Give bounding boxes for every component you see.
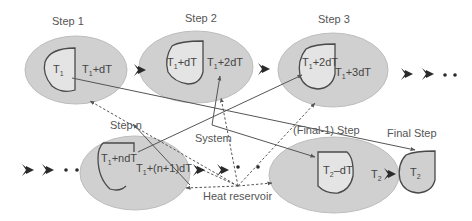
chevron-arrow-right-icon (193, 164, 205, 176)
dots-icon (75, 168, 79, 172)
system-label: System (195, 132, 232, 144)
chevron-arrow-right-icon (258, 63, 270, 75)
chevron-arrow-right-icon (217, 164, 229, 176)
step2-system-temp: T1+dT (167, 56, 197, 70)
step2-reservoir-temp: T1+2dT (207, 56, 243, 70)
final-1-step-label: (Final-1) Step (293, 124, 360, 136)
stepn-label: Step n (110, 119, 142, 131)
chevron-arrow-right-icon (401, 68, 413, 80)
dots-icon (256, 165, 260, 169)
final-step-label: Final Step (387, 127, 437, 139)
step1-label: Step 1 (52, 15, 84, 27)
chevron-arrow-right-icon (22, 164, 34, 176)
stepn-system-temp: T1+ndT (101, 152, 137, 166)
step2-label: Step 2 (185, 12, 217, 24)
step3-system-temp: T1+2dT (302, 56, 338, 70)
heat-reservoir-label: Heat reservoir (203, 190, 272, 202)
dots-icon (236, 165, 240, 169)
step3-label: Step 3 (318, 13, 350, 25)
final-system-shape (399, 151, 435, 193)
dots-icon (443, 73, 447, 77)
dots-icon (64, 168, 68, 172)
final-1-system-temp: T2–dT (323, 164, 353, 178)
chevron-arrow-right-icon (422, 68, 434, 80)
step3-reservoir-temp: T1+3dT (335, 66, 371, 80)
dots-icon (453, 73, 457, 77)
chevron-arrow-right-icon (42, 164, 54, 176)
step1-reservoir-temp: T1+dT (82, 63, 112, 77)
thermodynamic-steps-diagram: Step 1 Step 2 Step 3 Step n (Final-1) St… (0, 0, 472, 221)
